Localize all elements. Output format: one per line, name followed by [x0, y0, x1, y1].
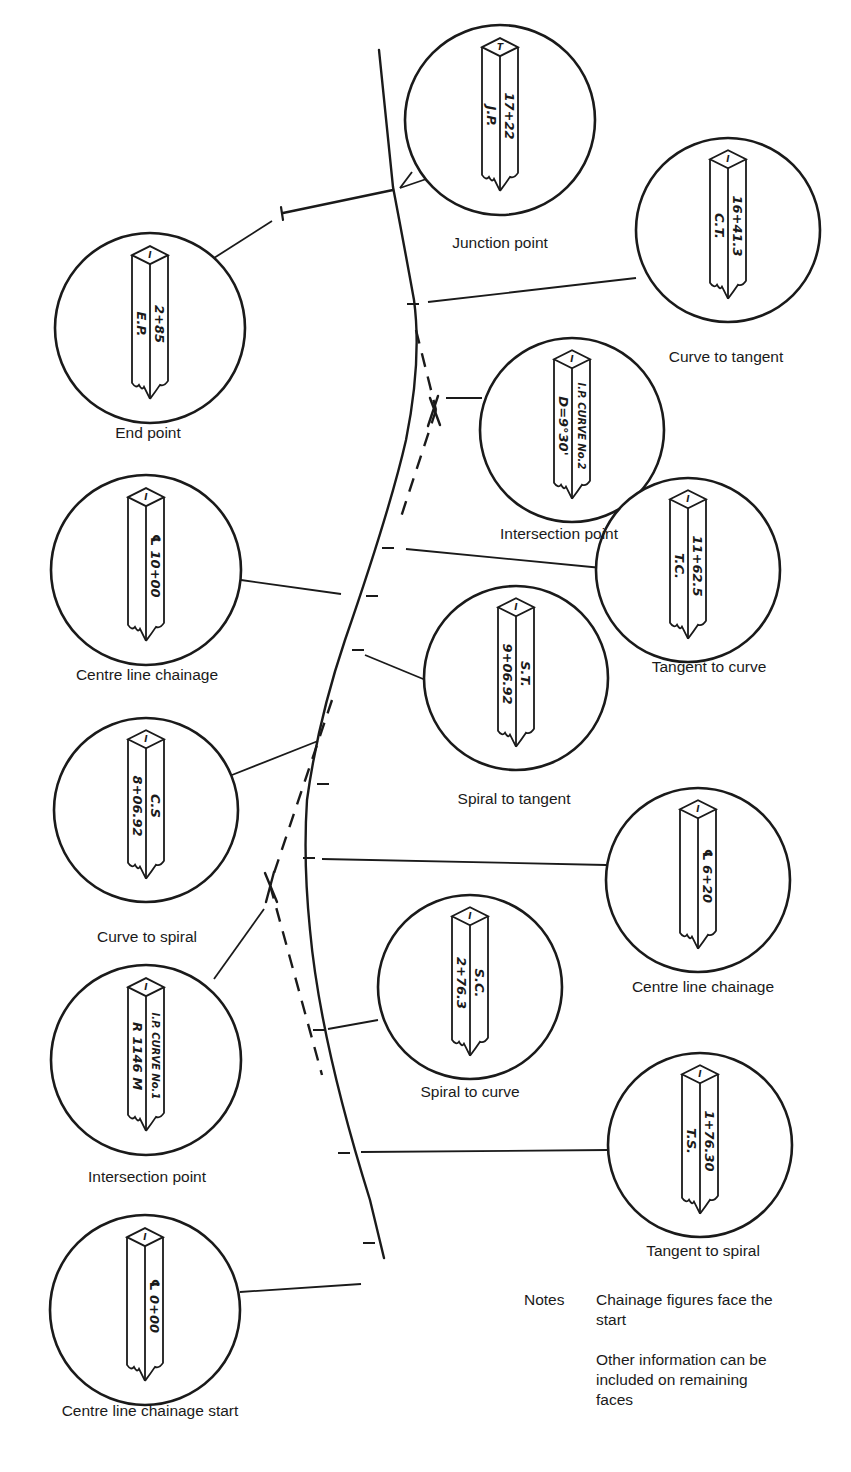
station-ticks [303, 304, 419, 1243]
stake-face-right: 16+41.3 [730, 195, 745, 256]
stake-label: Tangent to curve [652, 658, 767, 676]
stake-face-left: T.C. [672, 553, 687, 579]
stake-top-mark: T [497, 42, 504, 52]
stake-label: Intersection point [88, 1168, 206, 1186]
stake-face-right: ℄ 10+00 [148, 534, 163, 597]
stake-face-left: E.P. [134, 312, 149, 337]
stake-label: Curve to spiral [97, 928, 197, 946]
stake-label: Curve to tangent [669, 348, 784, 366]
stake-centre-line-chainage-start: I℄ 0+00 [50, 1215, 240, 1405]
stake-label: Tangent to spiral [646, 1242, 760, 1260]
leader-curve-to-spiral [232, 741, 318, 775]
stake-intersection-point-1: IR 1146 MI.P. CURVE No.1 [51, 965, 241, 1155]
leader-intersection-point-1 [214, 909, 264, 979]
tangent-line-curve-2-lower [400, 410, 436, 520]
stake-face-left: C.T. [712, 213, 727, 239]
stake-face-left: D=9°30' [556, 396, 571, 455]
note-line: Chainage figures face the start [596, 1290, 786, 1330]
stake-label: Centre line chainage [76, 666, 218, 684]
leader-end-point [214, 221, 272, 258]
junction-branch [283, 190, 393, 213]
tangent-line-curve-1-upper [270, 700, 332, 885]
stake-face-right: 1+76.30 [702, 1110, 717, 1171]
notes-body: Chainage figures face the start Other in… [596, 1290, 786, 1430]
stake-tangent-to-curve: IT.C.11+62.5 [596, 478, 780, 662]
stake-label: Intersection point [500, 525, 618, 543]
stake-end-point: IE.P.2+85 [55, 233, 245, 423]
stake-centre-line-chainage-10: I℄ 10+00 [51, 475, 241, 665]
leader-centre-line-chainage-10 [241, 580, 341, 594]
stake-face-right: S.C. [472, 969, 487, 998]
stake-circles: TJ.P.17+22IC.T.16+41.3IE.P.2+85ID=9°30'I… [50, 25, 820, 1405]
stake-label: Centre line chainage [632, 978, 774, 996]
stake-face-right: 17+22 [502, 92, 517, 139]
tangent-line-curve-2-upper [416, 330, 436, 410]
stake-face-left: J.P. [484, 103, 499, 127]
note-line: Other information can be included on rem… [596, 1350, 786, 1410]
stake-face-right: C.S [148, 794, 163, 818]
centre-line [306, 50, 417, 1258]
leader-spiral-to-tangent [365, 655, 428, 681]
stake-spiral-to-tangent: I9+06.92S.T. [424, 586, 608, 770]
stake-label: Junction point [452, 234, 548, 252]
stake-face-right: 11+62.5 [690, 535, 705, 596]
leader-centre-line-chainage-6 [322, 859, 606, 865]
stake-label: Spiral to curve [420, 1083, 519, 1101]
stake-face-left: 2+76.3 [454, 957, 469, 1009]
tangent-line-curve-1-lower [270, 885, 322, 1075]
ip-1-cross-icon [265, 872, 277, 902]
leader-curve-to-tangent [428, 278, 636, 302]
stake-label: End point [115, 424, 181, 442]
junction-branch-end-tick [281, 207, 283, 220]
stake-face-left: T.S. [684, 1128, 699, 1154]
stake-curve-to-spiral: I8+06.92C.S [54, 718, 238, 902]
stake-face-left: 9+06.92 [500, 643, 515, 704]
stake-curve-to-tangent: IC.T.16+41.3 [636, 138, 820, 322]
leader-tangent-to-spiral [361, 1150, 608, 1152]
notes-title: Notes [524, 1290, 565, 1310]
stake-face-right: ℄ 6+20 [700, 849, 715, 903]
stake-junction-point: TJ.P.17+22 [405, 25, 595, 215]
stake-tangent-to-spiral: IT.S.1+76.30 [608, 1053, 792, 1237]
stake-face-right: S.T. [518, 661, 533, 687]
stake-spiral-to-curve: I2+76.3S.C. [378, 895, 562, 1079]
stake-face-right: 2+85 [152, 305, 167, 343]
leader-spiral-to-curve [328, 1020, 378, 1029]
stake-centre-line-chainage-6: I℄ 6+20 [606, 788, 790, 972]
leader-centre-line-chainage-start [240, 1284, 361, 1292]
stake-face-right: I.P. CURVE No.1 [150, 1013, 161, 1100]
centre-line-alignment [281, 50, 417, 1258]
stake-face-left: R 1146 M [130, 1022, 145, 1090]
leader-tangent-to-curve [406, 549, 602, 568]
stake-label: Centre line chainage start [62, 1402, 239, 1420]
stake-face-left: 8+06.92 [130, 775, 145, 836]
stake-label: Spiral to tangent [458, 790, 571, 808]
stake-face-right: ℄ 0+00 [147, 1279, 162, 1333]
stake-face-right: I.P. CURVE No.2 [576, 383, 587, 470]
